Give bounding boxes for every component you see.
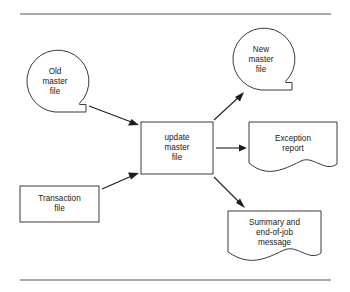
connector-line xyxy=(102,175,134,189)
node-label-line: Old xyxy=(49,67,62,76)
node-label-line: Transaction xyxy=(38,194,81,203)
node-label-line: New xyxy=(253,45,269,54)
node-label-line: master xyxy=(164,143,189,152)
connector-line xyxy=(214,177,240,203)
arrow-head-icon xyxy=(128,173,139,180)
node-label-line: file xyxy=(256,65,267,74)
node-label-line: file xyxy=(172,153,183,162)
arrow-head-icon xyxy=(128,119,139,126)
connector-update-to-exception xyxy=(216,145,247,152)
connector-old-to-update xyxy=(89,106,139,126)
node-label-line: end-of-job xyxy=(256,228,293,237)
node-label-line: Exception xyxy=(275,134,311,143)
arrow-head-icon xyxy=(239,145,247,152)
node-label-line: file xyxy=(50,87,61,96)
node-update-master-file[interactable]: update master file xyxy=(141,122,213,174)
flowchart-diagram: Old master file New master file Transact… xyxy=(0,0,350,292)
node-label-line: Summary and xyxy=(249,218,300,227)
node-summary-message[interactable]: Summary and end-of-job message xyxy=(228,211,321,260)
node-label-line: file xyxy=(54,204,65,213)
node-exception-report[interactable]: Exception report xyxy=(249,122,337,171)
connector-update-to-summary xyxy=(214,177,245,208)
node-old-master-file[interactable]: Old master file xyxy=(27,50,89,112)
connector-line xyxy=(89,106,134,123)
node-label-line: master xyxy=(248,55,273,64)
node-label-line: report xyxy=(282,144,304,153)
flowchart-canvas: Old master file New master file Transact… xyxy=(0,0,350,292)
node-label-line: update xyxy=(164,133,189,142)
node-new-master-file[interactable]: New master file xyxy=(233,28,295,90)
node-label-line: message xyxy=(258,238,292,247)
node-label-line: master xyxy=(42,77,67,86)
connector-update-to-new xyxy=(214,92,244,120)
node-transaction-file[interactable]: Transaction file xyxy=(20,186,99,222)
connector-transaction-to-update xyxy=(102,173,139,190)
connector-line xyxy=(214,96,240,120)
